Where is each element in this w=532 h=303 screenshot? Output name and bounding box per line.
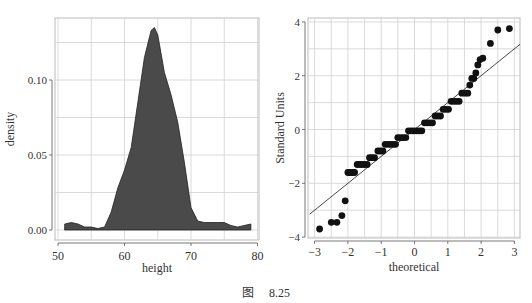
data-point [472, 70, 479, 77]
svg-text:0.10: 0.10 [28, 74, 48, 86]
data-point [445, 106, 452, 113]
y-axis-ticks: −4−2024 [288, 16, 305, 243]
data-point [418, 127, 425, 134]
figure-number: 8.25 [269, 286, 290, 300]
density-chart: 50607080 0.000.050.10 height density [0, 0, 270, 280]
data-point [342, 197, 349, 204]
data-point [364, 161, 371, 168]
svg-text:0.05: 0.05 [28, 149, 48, 161]
data-point [316, 226, 323, 233]
svg-text:50: 50 [52, 249, 64, 263]
x-axis-label: theoretical [389, 260, 440, 274]
svg-text:−2: −2 [342, 245, 355, 259]
data-point [456, 98, 463, 105]
y-axis-ticks: 0.000.050.10 [28, 74, 52, 236]
svg-text:60: 60 [119, 249, 131, 263]
qq-plot-area: −3−2−10123 −4−2024 theoretical Standard … [260, 0, 532, 280]
x-axis-ticks: 50607080 [52, 243, 264, 263]
data-point [479, 55, 486, 62]
x-axis-label: height [142, 261, 173, 275]
data-point [371, 154, 378, 161]
svg-text:−4: −4 [288, 231, 300, 243]
svg-text:4: 4 [295, 16, 301, 28]
data-point [334, 219, 341, 226]
y-axis-label: Standard Units [273, 92, 287, 164]
svg-text:70: 70 [185, 249, 197, 263]
svg-text:−1: −1 [375, 245, 388, 259]
data-point [402, 134, 409, 141]
data-point [494, 27, 501, 34]
qq-chart: −3−2−10123 −4−2024 theoretical Standard … [260, 0, 532, 280]
data-point [429, 119, 436, 126]
svg-text:2: 2 [295, 70, 301, 82]
data-point [464, 90, 471, 97]
figure-caption: 图 8.25 [0, 283, 532, 301]
data-point [339, 212, 346, 219]
data-point [351, 169, 358, 176]
figure-label: 图 [242, 286, 254, 300]
svg-text:0: 0 [295, 124, 301, 136]
svg-text:−3: −3 [308, 245, 321, 259]
data-point [466, 82, 473, 89]
svg-text:0.00: 0.00 [28, 224, 48, 236]
svg-text:2: 2 [478, 245, 484, 259]
x-axis-ticks: −3−2−10123 [308, 241, 517, 259]
svg-text:0: 0 [412, 245, 418, 259]
svg-text:−2: −2 [288, 177, 300, 189]
svg-text:3: 3 [511, 245, 517, 259]
density-plot-area: 50607080 0.000.050.10 height density [0, 0, 270, 280]
data-point [487, 40, 494, 47]
y-axis-label: density [3, 112, 17, 147]
data-point [506, 25, 513, 32]
data-point [437, 113, 444, 120]
data-point [392, 141, 399, 148]
svg-text:1: 1 [445, 245, 451, 259]
data-point [380, 148, 387, 155]
